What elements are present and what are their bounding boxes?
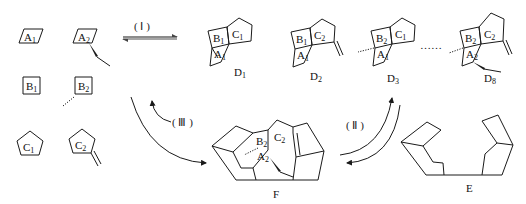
d8-c-label: C2: [484, 28, 495, 42]
step-1-arrow: ( Ⅰ ): [122, 20, 178, 42]
d8-a-label: A2: [466, 48, 478, 62]
d8-label: D8: [484, 72, 496, 86]
b1-label: B1: [26, 80, 37, 94]
fragment-c2: C2: [69, 129, 101, 166]
double-bond-line: [503, 41, 509, 55]
fragment-a2: A2: [73, 29, 110, 66]
f-label: F: [273, 188, 279, 200]
fragment-b1: B1: [23, 77, 40, 94]
f-b-label: B2: [256, 135, 267, 149]
series-ellipsis: ……: [420, 39, 442, 51]
b2-label: B2: [78, 80, 89, 94]
product-e: E: [401, 115, 513, 194]
d8-b-label: B2: [465, 32, 476, 46]
c-ring: [253, 120, 293, 133]
hashed-bond: [244, 148, 258, 155]
f-c-label: C2: [274, 131, 285, 145]
bond: [280, 172, 293, 177]
fragment-c1: C1: [17, 131, 43, 155]
bond: [293, 157, 296, 180]
d1-label: D1: [234, 66, 246, 80]
wedge-bond: [473, 62, 485, 70]
bond: [212, 126, 253, 146]
reverse-arrowhead: [122, 39, 128, 42]
d1-a-label: A1: [214, 48, 226, 62]
hashed-bond: [358, 48, 374, 52]
right-ring: [482, 115, 513, 175]
step-3-arrows: ( Ⅲ ): [131, 97, 206, 163]
curved-arrow-to-f: [131, 97, 206, 163]
d3-b-label: B2: [376, 32, 387, 46]
bond: [253, 168, 256, 180]
wedge-bond: [89, 43, 98, 57]
product-d1: B1 C1 A1 D1: [208, 18, 252, 80]
d3-c-label: C1: [395, 28, 406, 42]
bond: [293, 133, 296, 157]
product-f: B2 C2 A2 F: [212, 120, 324, 200]
product-d2: B1 C2 A1 D2: [291, 19, 343, 84]
curved-arrow-to-f: [347, 105, 400, 163]
double-bond-line: [337, 41, 343, 55]
a1-label: A1: [24, 31, 36, 45]
curved-arrow-to-fragments: [152, 101, 171, 122]
hashed-bond: [63, 97, 74, 106]
right-chain: [482, 145, 513, 175]
a2-label: A2: [78, 31, 90, 45]
fragment-b2: B2: [63, 77, 92, 106]
d3-label: D3: [387, 72, 399, 86]
d1-b-label: B1: [213, 32, 224, 46]
product-d8: B2 C2 A2 D8: [449, 13, 512, 86]
forward-arrowhead: [172, 34, 178, 37]
double-bond-line: [506, 40, 512, 54]
f-a-label: A2: [257, 150, 269, 164]
d2-b-label: B1: [296, 33, 307, 47]
d2-label: D2: [310, 70, 322, 84]
product-d3: B2 C1 A1 D3: [358, 18, 415, 86]
ethyl-bond: [97, 57, 110, 66]
double-bond-line: [94, 151, 101, 164]
step-2-label: ( Ⅱ ): [346, 119, 364, 132]
d2-a-label: A1: [297, 49, 309, 63]
left-chain: [401, 142, 444, 175]
e-label: E: [466, 182, 473, 194]
c2-label: C2: [75, 139, 86, 153]
fragment-a1: A1: [19, 29, 43, 45]
double-bond-line: [91, 153, 98, 166]
c1-label: C1: [23, 141, 34, 155]
double-bond-line: [334, 42, 340, 56]
step-3-label: ( Ⅲ ): [172, 116, 193, 129]
reaction-scheme: A1 A2 B1 B2 C1 C2 ( Ⅰ ): [0, 0, 526, 204]
hashed-bond: [449, 48, 463, 53]
d3-a-label: A1: [377, 48, 389, 62]
step-2-arrows: ( Ⅱ ): [340, 98, 400, 163]
double-bond: [297, 133, 300, 155]
d1-c-label: C1: [232, 28, 243, 42]
wedge-bond: [270, 158, 281, 172]
step-1-label: ( Ⅰ ): [134, 20, 150, 33]
bond: [212, 133, 253, 152]
d2-c-label: C2: [314, 29, 325, 43]
left-ring: [401, 122, 441, 146]
